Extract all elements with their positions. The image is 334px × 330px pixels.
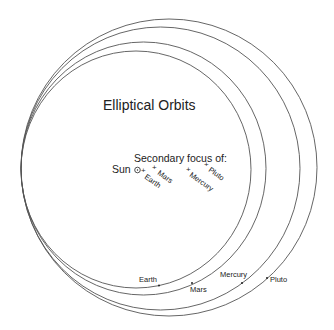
focus-marker-pluto: +: [204, 160, 209, 169]
diagram-title: Elliptical Orbits: [103, 97, 196, 113]
sun-icon: [135, 167, 141, 173]
orbit-diagram: Elliptical Orbits Secondary focus of: Su…: [0, 0, 334, 330]
focus-label-pluto: Pluto: [207, 165, 226, 182]
planet-label-mars: Mars: [190, 285, 207, 294]
planet-label-mercury: Mercury: [220, 270, 247, 279]
planet-dot-mercury: [241, 282, 243, 284]
planet-label-earth: Earth: [139, 275, 157, 284]
focus-marker-earth: +: [141, 166, 146, 175]
secondary-focus-heading: Secondary focus of:: [134, 152, 227, 164]
planet-dot-earth: [158, 285, 160, 287]
planet-dot-pluto: [266, 277, 268, 279]
planet-label-pluto: Pluto: [270, 275, 287, 284]
planet-dot-mars: [191, 282, 193, 284]
sun-label: Sun: [112, 163, 131, 175]
focus-marker-mars: +: [152, 163, 157, 172]
